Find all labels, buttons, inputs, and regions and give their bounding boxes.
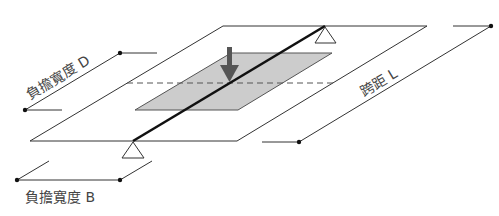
- dimension-b: [15, 161, 152, 182]
- support-bottom-icon: [122, 142, 144, 158]
- slab-load-diagram: 負擔寬度 D 跨距 L 負擔寬度 B: [0, 0, 499, 216]
- label-load-width-b: 負擔寬度 B: [25, 189, 95, 205]
- label-load-width-d: 負擔寬度 D: [23, 52, 92, 102]
